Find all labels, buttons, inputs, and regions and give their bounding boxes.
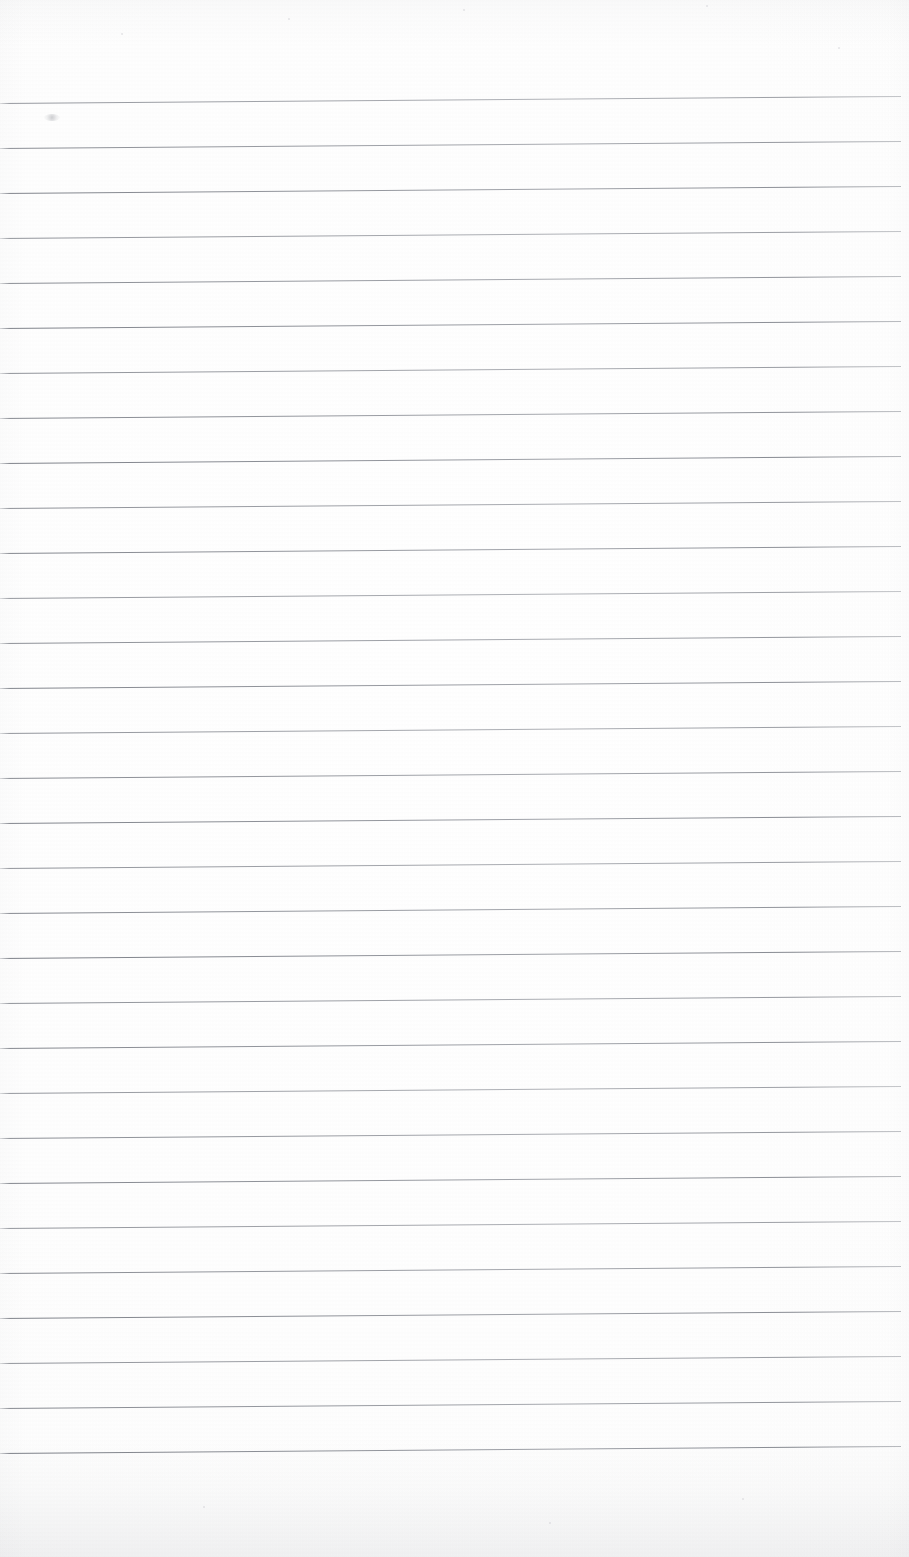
rule-line: [0, 501, 901, 509]
scan-speck: [838, 47, 840, 49]
rule-line: [0, 321, 901, 329]
rule-line: [0, 906, 901, 914]
rule-line: [0, 951, 901, 959]
rule-line: [0, 726, 901, 734]
rule-line: [0, 1041, 901, 1049]
pencil-smudge: [44, 114, 60, 121]
rule-line: [0, 141, 901, 149]
rule-line: [0, 771, 901, 779]
rule-line: [0, 1086, 901, 1094]
scanned-page: [0, 0, 909, 1557]
rule-line: [0, 1311, 901, 1319]
rule-line: [0, 591, 901, 599]
rule-line: [0, 411, 901, 419]
rule-line: [0, 816, 901, 824]
scan-edge-shadow-left: [0, 0, 26, 1557]
scan-edge-shadow-top: [0, 0, 909, 46]
rule-line: [0, 1266, 901, 1274]
rule-line: [0, 1131, 901, 1139]
rule-line: [0, 1356, 901, 1364]
rule-line: [0, 1221, 901, 1229]
rule-line: [0, 366, 901, 374]
rule-line: [0, 456, 901, 464]
rule-line: [0, 96, 901, 104]
rule-line: [0, 996, 901, 1004]
rule-line: [0, 546, 901, 554]
scan-edge-shadow-right: [887, 0, 909, 1557]
rule-line: [0, 231, 901, 239]
rule-line: [0, 861, 901, 869]
rule-line: [0, 636, 901, 644]
rule-line: [0, 276, 901, 284]
ruled-lines-group: [0, 0, 909, 1557]
rule-line: [0, 681, 901, 689]
rule-line: [0, 186, 901, 194]
rule-line: [0, 1176, 901, 1184]
scan-edge-shadow-bottom: [0, 1437, 909, 1557]
rule-line: [0, 1401, 901, 1409]
